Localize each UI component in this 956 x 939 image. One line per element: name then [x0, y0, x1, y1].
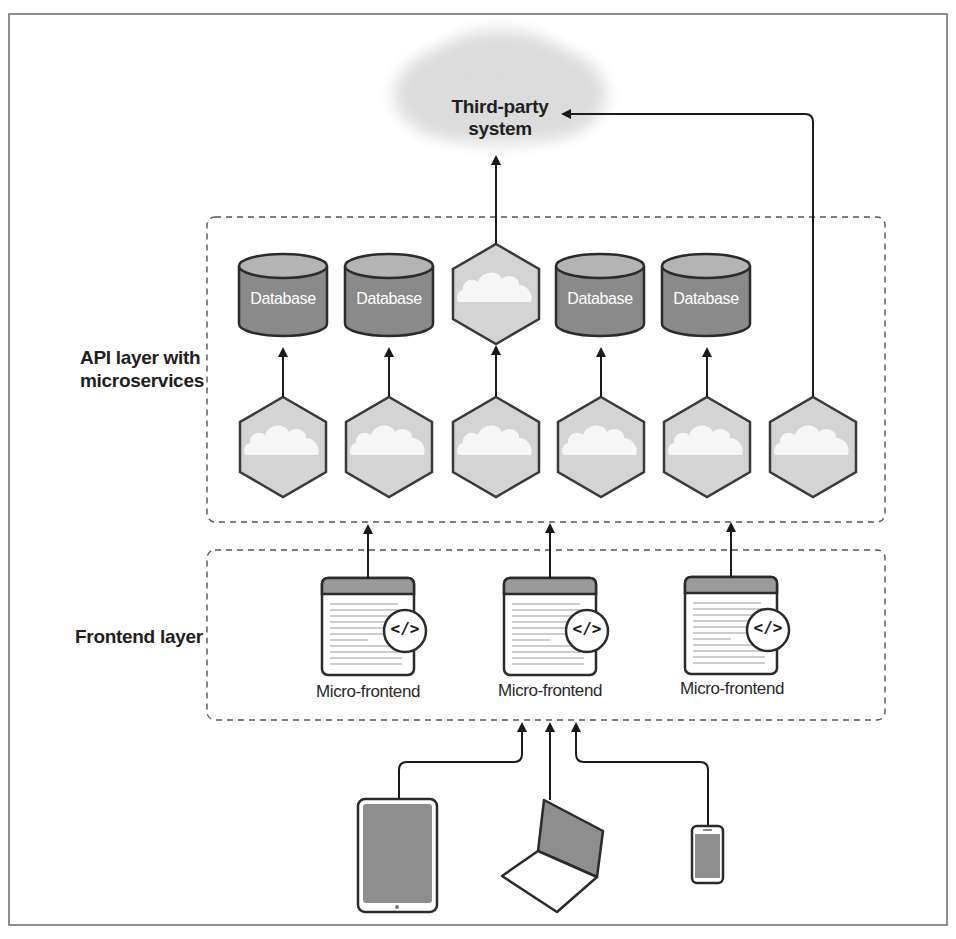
microservice-4	[558, 397, 644, 497]
code-icon: </>	[572, 619, 602, 638]
database-1-label: Database	[239, 290, 327, 308]
architecture-diagram	[0, 0, 956, 939]
database-2-label: Database	[345, 290, 433, 308]
microservice-1	[240, 397, 326, 497]
smartphone-icon	[692, 826, 723, 883]
database-4-label: Database	[662, 290, 750, 308]
service-to-database-arrows	[283, 350, 707, 397]
third-party-arrows	[496, 114, 813, 397]
microservice-2	[346, 397, 432, 497]
microservice-3	[453, 397, 539, 497]
code-icon: </>	[390, 619, 420, 638]
api-layer-label-line2: microservices	[80, 369, 204, 392]
third-party-title-line2: system	[440, 118, 560, 140]
microservice-5	[664, 397, 750, 497]
laptop-icon	[502, 800, 603, 912]
api-layer-label: API layer with microservices	[80, 346, 204, 392]
third-party-title: Third-party system	[440, 96, 560, 140]
code-icon: </>	[753, 618, 783, 637]
micro-frontend-1-label: Micro-frontend	[298, 682, 438, 702]
third-party-title-line1: Third-party	[440, 96, 560, 118]
api-layer-label-line1: API layer with	[80, 346, 204, 369]
frontend-to-api-arrows	[368, 527, 731, 578]
tablet-icon	[358, 799, 437, 912]
frontend-layer-label: Frontend layer	[75, 625, 203, 648]
database-3-label: Database	[556, 290, 644, 308]
microservice-6	[770, 397, 856, 497]
third-party-gateway-service	[453, 244, 539, 344]
micro-frontend-3-label: Micro-frontend	[662, 679, 802, 699]
micro-frontend-2-label: Micro-frontend	[480, 681, 620, 701]
